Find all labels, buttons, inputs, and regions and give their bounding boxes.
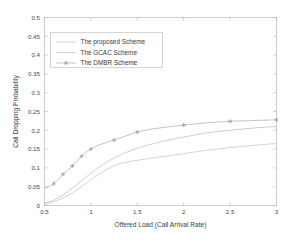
x-tick-label: 2.5 — [226, 208, 235, 215]
x-tick-label: 0.5 — [40, 208, 49, 215]
x-tick-label: 3 — [275, 208, 279, 215]
y-tick-label: 0.5 — [31, 14, 40, 21]
series-line-1 — [45, 127, 277, 204]
y-axis-title: Call Dropping Probability — [12, 75, 20, 148]
legend-label-1: The GCAC Scheme — [81, 49, 138, 56]
x-tick-label: 1.5 — [133, 208, 142, 215]
legend-label-2: The DMBR Scheme — [81, 59, 138, 66]
y-tick-label: 0.3 — [31, 89, 40, 96]
y-tick-label: 0.05 — [28, 183, 41, 190]
y-tick-label: 0.2 — [31, 127, 40, 134]
x-tick-label: 1 — [89, 208, 93, 215]
y-tick-label: 0.35 — [28, 70, 41, 77]
chart-figure: 0.511.522.5300.050.10.150.20.250.30.350.… — [0, 0, 294, 242]
call-dropping-probability-chart: 0.511.522.5300.050.10.150.20.250.30.350.… — [0, 0, 294, 242]
y-tick-label: 0.25 — [28, 108, 41, 115]
y-tick-label: 0.4 — [31, 51, 40, 58]
series-line-2 — [45, 120, 277, 189]
legend-label-0: The proposed Scheme — [81, 38, 146, 46]
y-tick-label: 0.1 — [31, 164, 40, 171]
x-tick-label: 2 — [182, 208, 186, 215]
y-tick-label: 0.45 — [28, 33, 41, 40]
y-tick-label: 0.15 — [28, 145, 41, 152]
x-axis-title: Offered Load (Call Arrival Rate) — [115, 221, 207, 229]
series-markers-2 — [52, 118, 278, 186]
series-line-0 — [45, 143, 277, 204]
y-tick-label: 0 — [37, 202, 41, 209]
